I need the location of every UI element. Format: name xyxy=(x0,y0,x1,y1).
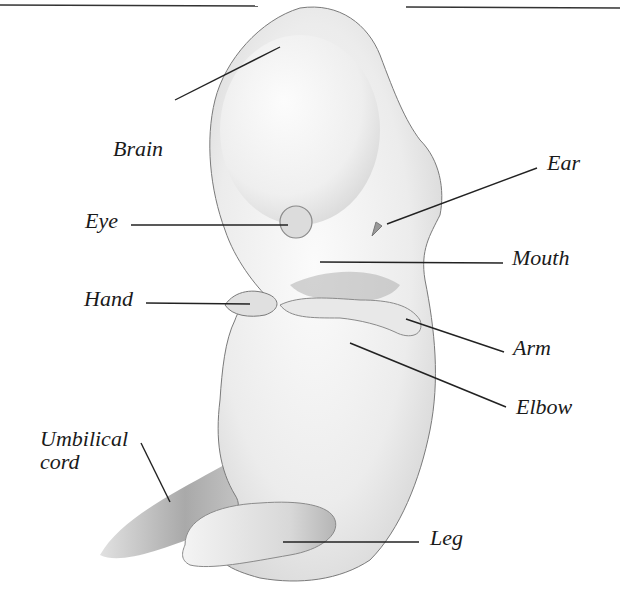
head-region xyxy=(220,35,380,225)
label-umbilical-line1: Umbilical xyxy=(40,427,128,450)
top-rule-right xyxy=(406,7,620,8)
top-rule-left xyxy=(0,5,258,6)
label-elbow: Elbow xyxy=(516,395,572,418)
eye-shape xyxy=(280,206,312,238)
label-brain: Brain xyxy=(113,137,163,160)
label-hand: Hand xyxy=(84,287,133,310)
label-leg: Leg xyxy=(430,526,463,549)
label-umbilical-cord: Umbilical cord xyxy=(40,427,128,473)
leader-hand xyxy=(146,303,250,304)
label-eye: Eye xyxy=(85,209,118,232)
leader-umbilical xyxy=(141,443,170,502)
label-arm: Arm xyxy=(513,336,551,359)
label-mouth: Mouth xyxy=(512,246,569,269)
embryo-diagram: Brain Ear Eye Mouth Hand Arm Elbow Umbil… xyxy=(0,0,628,593)
label-umbilical-line2: cord xyxy=(40,450,128,473)
label-ear: Ear xyxy=(547,151,580,174)
